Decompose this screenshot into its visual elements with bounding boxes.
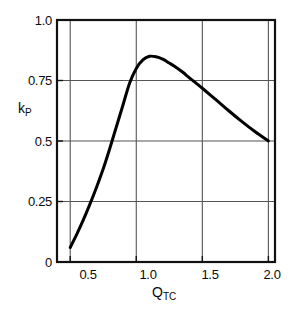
data-series-curve — [70, 56, 268, 247]
y-axis-title: kP — [18, 101, 32, 115]
x-axis-title: QTC — [152, 285, 176, 299]
y-tick-label-0: 0 — [10, 256, 52, 269]
x-axis-title-base: Q — [152, 284, 163, 300]
y-tick-label-075: 0.75 — [10, 74, 52, 87]
y-tick-label-05: 0.5 — [10, 135, 52, 148]
x-tick-label-15: 1.5 — [190, 268, 230, 281]
chart-figure: 1.0 0.75 0.5 0.25 0 0.5 1.0 1.5 2.0 kP Q… — [0, 0, 298, 312]
x-tick-label-05: 0.5 — [68, 268, 108, 281]
x-axis-title-sub: TC — [163, 291, 176, 302]
y-axis-title-sub: P — [25, 107, 32, 118]
y-tick-label-1: 1.0 — [10, 14, 52, 27]
x-tick-label-10: 1.0 — [128, 268, 168, 281]
y-axis-title-base: k — [18, 100, 25, 116]
y-tick-label-025: 0.25 — [10, 195, 52, 208]
grid-lines — [57, 20, 275, 262]
x-tick-label-20: 2.0 — [252, 268, 292, 281]
